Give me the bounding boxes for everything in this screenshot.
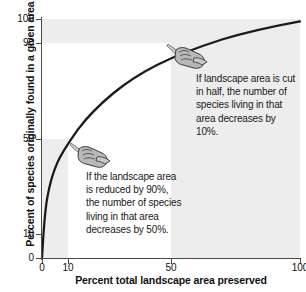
species-area-chart: Percent of species originally found in a… [0, 0, 306, 292]
y-ticklabel-10: 10 [8, 229, 34, 239]
y-ticklabel-50: 50 [8, 134, 34, 144]
x-axis-title: Percent total landscape area preserved [42, 274, 300, 286]
y-ticklabel-90: 90 [8, 38, 34, 48]
y-ticklabel-100: 100 [8, 14, 34, 24]
y-tick-10 [36, 234, 42, 235]
annotation-reduced-by-90: If the landscape area is reduced by 90%,… [86, 170, 183, 236]
y-tick-100 [36, 19, 42, 20]
x-ticklabel-100: 100 [285, 263, 306, 273]
x-ticklabel-50: 50 [156, 263, 186, 273]
x-ticklabel-10: 10 [53, 263, 83, 273]
annotation-cut-in-half: If landscape area is cut in half, the nu… [196, 72, 300, 138]
y-tick-90 [36, 43, 42, 44]
y-tick-50 [36, 139, 42, 140]
y-ticklabel-0: 0 [8, 253, 34, 263]
